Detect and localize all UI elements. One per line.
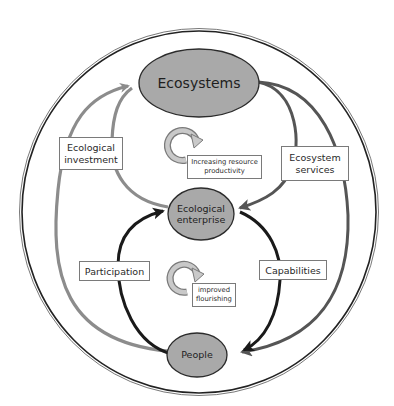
label-increasing-resource-productivity: Increasing resource productivity (187, 155, 262, 179)
label-ecological-investment: Ecological investment (59, 137, 123, 170)
participation-text: Participation (85, 266, 144, 277)
node-people-label: People (167, 345, 227, 365)
people-text: People (181, 349, 213, 360)
node-ecosystems-label: Ecosystems (139, 68, 259, 98)
label-ecosystem-services: Ecosystem services (281, 146, 349, 181)
capabilities-text: Capabilities (265, 265, 320, 276)
cycle-upper-line1: Increasing resource (191, 158, 258, 167)
ecosystems-text: Ecosystems (157, 75, 240, 92)
ecological-investment-line1: Ecological (67, 142, 115, 154)
node-enterprise-label: Ecological enterprise (168, 198, 234, 230)
label-participation: Participation (79, 261, 150, 281)
enterprise-text-line2: enterprise (177, 214, 226, 225)
ecological-investment-line2: investment (64, 154, 118, 166)
cycle-lower-line2: flourishing (196, 295, 232, 304)
cycle-lower-line1: improved (198, 286, 230, 295)
enterprise-text-line1: Ecological (177, 203, 225, 214)
arrow-investment-outer (56, 86, 178, 352)
arrow-participation (118, 211, 172, 354)
ecosystem-services-line2: services (296, 164, 335, 176)
cycle-upper-line2: productivity (204, 167, 245, 176)
label-improved-flourishing: improved flourishing (192, 283, 236, 307)
arrow-capabilities (240, 212, 280, 350)
ecosystem-services-line1: Ecosystem (289, 152, 340, 164)
label-capabilities: Capabilities (259, 260, 327, 280)
